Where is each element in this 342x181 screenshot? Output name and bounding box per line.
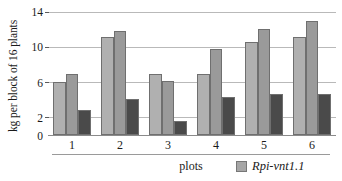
x-tick-label-1: 1 xyxy=(48,138,96,152)
bar-1-series-1 xyxy=(53,82,65,135)
bar-group-2 xyxy=(96,12,144,135)
bar-3-series-1 xyxy=(149,74,161,135)
chart-legend: Rpi-vnt1.1 xyxy=(236,158,304,174)
y-axis-label: kg per block of 16 plants xyxy=(4,6,22,146)
x-axis-rule xyxy=(52,154,330,155)
legend-swatch-rpi-vnt11 xyxy=(236,161,247,172)
y-tick-label-2: 2 xyxy=(21,113,43,123)
bar-5-series-1 xyxy=(245,42,257,135)
bar-2-series-2 xyxy=(114,31,126,135)
bar-2-series-1 xyxy=(101,37,113,135)
bar-group-1 xyxy=(48,12,96,135)
x-axis-tick-labels: 123456 xyxy=(48,138,336,153)
bar-group-6 xyxy=(288,12,336,135)
y-tick-label-14: 14 xyxy=(21,7,43,17)
y-tick-label-6: 6 xyxy=(21,78,43,88)
bar-4-series-2 xyxy=(210,49,222,135)
y-tick-label-0: 0 xyxy=(21,131,43,141)
bar-4-series-3 xyxy=(222,97,234,135)
x-tick-label-3: 3 xyxy=(144,138,192,152)
y-axis-tick-labels: 14 10 6 2 0 xyxy=(21,0,43,181)
x-tick-label-4: 4 xyxy=(192,138,240,152)
x-axis-spine xyxy=(48,135,336,136)
y-tick-label-10: 10 xyxy=(21,42,43,52)
bar-2-series-3 xyxy=(126,99,138,135)
bar-group-3 xyxy=(144,12,192,135)
bar-chart-figure: kg per block of 16 plants 14 10 6 2 0 12… xyxy=(0,0,342,181)
bar-1-series-3 xyxy=(78,110,90,135)
bar-group-4 xyxy=(192,12,240,135)
bar-6-series-3 xyxy=(318,94,330,135)
plot-area xyxy=(48,12,336,135)
x-tick-label-2: 2 xyxy=(96,138,144,152)
bar-groups xyxy=(48,12,336,135)
bar-5-series-3 xyxy=(270,94,282,135)
bar-1-series-2 xyxy=(66,74,78,136)
bar-3-series-3 xyxy=(174,121,186,135)
x-axis-label: plots xyxy=(160,158,222,174)
bar-3-series-2 xyxy=(162,81,174,135)
x-tick-label-5: 5 xyxy=(240,138,288,152)
legend-label-rpi-vnt11: Rpi-vnt1.1 xyxy=(252,159,304,173)
bar-4-series-1 xyxy=(197,74,209,136)
bar-5-series-2 xyxy=(258,29,270,135)
bar-6-series-1 xyxy=(293,37,305,135)
x-tick-label-6: 6 xyxy=(288,138,336,152)
bar-group-5 xyxy=(240,12,288,135)
bar-6-series-2 xyxy=(306,21,318,135)
